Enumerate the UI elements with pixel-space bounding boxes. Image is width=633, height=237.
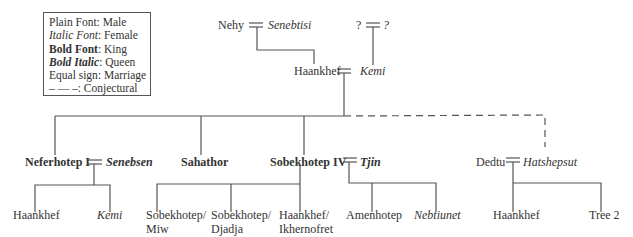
- person-amenhotep: Amenhotep: [346, 208, 402, 222]
- person-kemi-child: Kemi: [97, 208, 122, 222]
- person-sobekhotep-djadja: Sobekhotep/ Djadja: [211, 208, 271, 236]
- person-senebsen: Senebsen: [106, 155, 153, 169]
- person-senebtisi: Senebtisi: [268, 18, 311, 32]
- person-nebtiunet: Nebtiunet: [414, 208, 461, 222]
- person-neferhotep-i: Neferhotep I: [25, 155, 90, 169]
- person-sahathor: Sahathor: [181, 155, 228, 169]
- person-tjin: Tjin: [360, 155, 381, 169]
- person-unknown-husband: ?: [356, 18, 361, 32]
- person-sobekhotep-miw: Sobekhotep/ Miw: [146, 208, 206, 236]
- person-haankhef-ikhernofret: Haankhef/ Ikhernofret: [279, 208, 333, 236]
- person-dedtu: Dedtu: [476, 155, 505, 169]
- marriage-neferhotep: [88, 160, 102, 164]
- person-kemi: Kemi: [360, 64, 385, 78]
- marriage-nehy: [249, 23, 263, 27]
- person-haankhef: Haankhef: [294, 64, 341, 78]
- tree-2-link: Tree 2: [589, 208, 620, 222]
- person-unknown-wife: ?: [383, 18, 389, 32]
- marriage-unknown: [366, 23, 380, 27]
- marriage-dedtu: [506, 158, 520, 162]
- person-haankhef-dedtu-child: Haankhef: [493, 208, 540, 222]
- person-hatshepsut: Hatshepsut: [523, 155, 577, 169]
- person-haankhef-child: Haankhef: [13, 208, 60, 222]
- person-sobekhotep-iv: Sobekhotep IV: [270, 155, 346, 169]
- tree-lines: [0, 0, 633, 237]
- person-nehy: Nehy: [218, 18, 244, 32]
